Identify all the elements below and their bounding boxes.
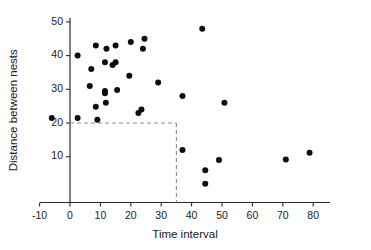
data-point: [113, 42, 119, 48]
x-axis-tick-label: 0: [67, 209, 73, 221]
x-axis-tick-label: 20: [125, 209, 137, 221]
y-axis-title: Distance between nests: [7, 49, 19, 171]
x-axis-tick-label: 70: [277, 209, 289, 221]
data-point: [113, 59, 119, 65]
chart-canvas: 1020304050-1001020304050607080Time inter…: [0, 0, 371, 250]
y-axis-tick-label: 30: [51, 82, 63, 94]
data-point: [102, 59, 108, 65]
data-point: [141, 36, 147, 42]
data-point: [221, 100, 227, 106]
x-axis-title: Time interval: [152, 228, 217, 240]
data-point-group: [49, 26, 313, 187]
x-axis-tick-label: 30: [155, 209, 167, 221]
x-axis-tick-label: 40: [186, 209, 198, 221]
data-point: [75, 53, 81, 59]
x-axis-tick-label: 80: [307, 209, 319, 221]
data-point: [179, 147, 185, 153]
data-point: [103, 100, 109, 106]
x-axis-tick-label: 60: [247, 209, 259, 221]
data-point: [128, 39, 134, 45]
data-point: [103, 46, 109, 52]
data-point: [102, 90, 108, 96]
y-axis-tick-label: 50: [51, 15, 63, 27]
data-point: [179, 93, 185, 99]
data-point: [138, 107, 144, 113]
x-axis-tick-label: 50: [216, 209, 228, 221]
y-axis-tick-label: 10: [51, 149, 63, 161]
data-point: [307, 150, 313, 156]
data-point: [202, 167, 208, 173]
data-point: [283, 156, 289, 162]
data-point: [114, 87, 120, 93]
data-point: [126, 73, 132, 79]
data-point: [93, 42, 99, 48]
data-point: [93, 104, 99, 110]
data-point: [199, 26, 205, 32]
data-point: [140, 46, 146, 52]
data-point: [216, 157, 222, 163]
data-point: [88, 66, 94, 72]
data-point: [94, 117, 100, 123]
data-point: [87, 83, 93, 89]
x-axis-tick-label: 10: [95, 209, 107, 221]
x-axis-tick-label: -10: [32, 209, 47, 221]
scatter-plot-figure: 1020304050-1001020304050607080Time inter…: [0, 0, 371, 250]
y-axis-tick-label: 40: [51, 48, 63, 60]
data-point: [75, 115, 81, 121]
data-point: [49, 115, 55, 121]
data-point: [202, 181, 208, 187]
data-point: [155, 80, 161, 86]
